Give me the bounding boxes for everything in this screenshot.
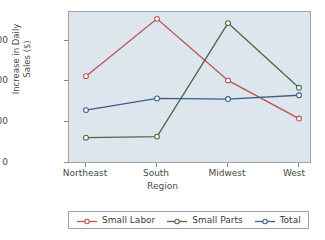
x-tick-label-south: South xyxy=(121,168,191,178)
legend-label-total: Total xyxy=(280,215,301,225)
data-point-small-labor-west[interactable] xyxy=(297,116,302,121)
x-tick-mark-midwest xyxy=(227,163,228,167)
data-point-total-midwest[interactable] xyxy=(226,97,231,102)
series-line-total xyxy=(86,95,299,110)
y-tick-label-400: 400 xyxy=(0,75,8,85)
legend-item-small-parts[interactable]: Small Parts xyxy=(166,211,242,230)
chart-legend: Small Labor Small Parts Total xyxy=(68,211,309,229)
y-tick-label-600: 600 xyxy=(0,35,8,45)
plot-area xyxy=(68,11,311,163)
data-point-total-west[interactable] xyxy=(297,93,302,98)
data-point-small-parts-west[interactable] xyxy=(297,85,302,90)
x-tick-mark-northeast xyxy=(85,163,86,167)
data-point-total-northeast[interactable] xyxy=(84,108,89,113)
legend-key-small-labor-icon xyxy=(76,211,98,230)
x-axis-title: Region xyxy=(0,181,325,191)
data-point-small-parts-south[interactable] xyxy=(155,134,160,139)
data-point-small-parts-midwest[interactable] xyxy=(226,21,231,26)
legend-item-total[interactable]: Total xyxy=(254,211,301,230)
plot-svg xyxy=(69,12,310,162)
series-line-small-labor xyxy=(86,19,299,119)
legend-key-total-icon xyxy=(254,211,276,230)
data-point-small-parts-northeast[interactable] xyxy=(84,135,89,140)
x-tick-mark-south xyxy=(156,163,157,167)
series-line-small-parts xyxy=(86,23,299,138)
legend-label-small-parts: Small Parts xyxy=(192,215,242,225)
y-tick-label-0: 0 xyxy=(0,157,8,167)
data-point-small-labor-northeast[interactable] xyxy=(84,74,89,79)
x-tick-mark-west xyxy=(298,163,299,167)
legend-key-small-parts-icon xyxy=(166,211,188,230)
x-tick-label-west: West xyxy=(263,168,325,178)
x-tick-label-northeast: Northeast xyxy=(50,168,120,178)
data-point-small-labor-south[interactable] xyxy=(155,16,160,21)
data-point-small-labor-midwest[interactable] xyxy=(226,78,231,83)
x-tick-label-midwest: Midwest xyxy=(192,168,262,178)
legend-item-small-labor[interactable]: Small Labor xyxy=(76,211,155,230)
legend-label-small-labor: Small Labor xyxy=(102,215,155,225)
line-chart: Increase in Daily Sales ($) 600 400 200 … xyxy=(0,0,325,240)
y-tick-label-200: 200 xyxy=(0,116,8,126)
data-point-total-south[interactable] xyxy=(155,96,160,101)
y-axis-title: Increase in Daily Sales ($) xyxy=(11,0,33,127)
